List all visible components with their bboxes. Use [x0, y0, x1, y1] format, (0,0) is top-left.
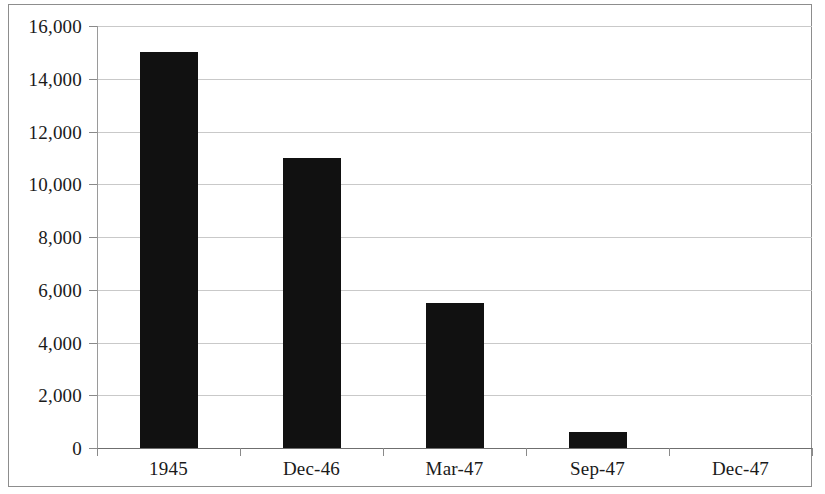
x-axis-line [90, 448, 812, 449]
x-axis-tick [240, 448, 241, 456]
y-axis-tick [89, 132, 97, 133]
y-axis-tick-labels: 02,0004,0006,0008,00010,00012,00014,0001… [0, 0, 82, 494]
bar [140, 52, 198, 448]
bars-group [97, 26, 812, 448]
y-axis-tick-label: 0 [2, 439, 82, 458]
x-axis-tick-label: Mar-47 [426, 458, 484, 480]
x-axis-tick [812, 448, 813, 456]
y-axis-tick [89, 290, 97, 291]
y-axis-tick-label: 14,000 [2, 69, 82, 88]
x-axis-tick [383, 448, 384, 456]
x-axis-tick-label: Sep-47 [570, 458, 625, 480]
x-axis-tick-label: Dec-47 [712, 458, 769, 480]
x-axis-tick [526, 448, 527, 456]
y-axis-tick [89, 79, 97, 80]
y-axis-tick-label: 16,000 [2, 17, 82, 36]
x-axis-tick [97, 448, 98, 456]
x-axis-tick-label: 1945 [149, 458, 188, 480]
x-axis-tick [669, 448, 670, 456]
y-axis-tick [89, 237, 97, 238]
y-axis-tick [89, 184, 97, 185]
y-axis-tick-label: 12,000 [2, 122, 82, 141]
y-axis-tick-label: 4,000 [2, 333, 82, 352]
y-axis-tick-label: 2,000 [2, 386, 82, 405]
y-axis-tick [89, 26, 97, 27]
x-axis-tick-label: Dec-46 [283, 458, 340, 480]
bar-chart-figure: 02,0004,0006,0008,00010,00012,00014,0001… [0, 0, 825, 494]
y-axis-tick [89, 343, 97, 344]
y-axis-tick-label: 8,000 [2, 228, 82, 247]
bar [426, 303, 484, 448]
y-axis-tick-label: 6,000 [2, 280, 82, 299]
y-axis-tick [89, 448, 97, 449]
bar [283, 158, 341, 448]
y-axis-tick [89, 395, 97, 396]
bar [569, 432, 627, 448]
y-axis-tick-label: 10,000 [2, 175, 82, 194]
